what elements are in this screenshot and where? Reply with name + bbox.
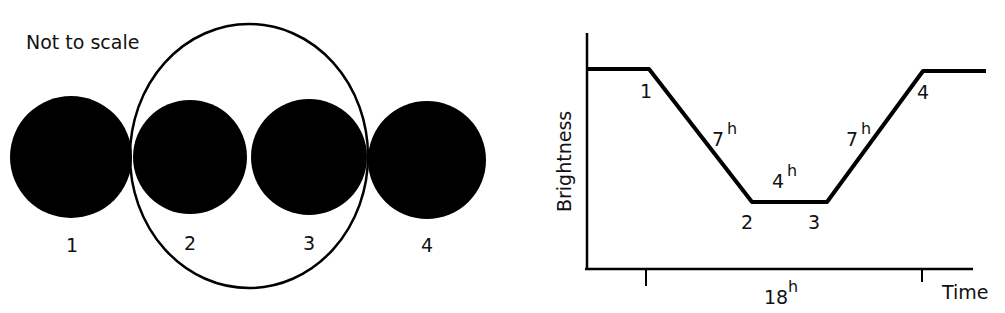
segment-duration-2-3: 4 h	[772, 161, 797, 192]
eclipse-diagram: Not to scale 1 2 3 4 Brightness Time 1 2…	[0, 0, 1005, 313]
x-axis-label: Time	[941, 281, 989, 303]
star-configuration-diagram: Not to scale 1 2 3 4	[10, 24, 486, 288]
star-2-disc	[133, 100, 247, 214]
svg-text:7: 7	[846, 128, 858, 150]
star-4-disc	[368, 101, 486, 219]
point-label-3: 3	[808, 211, 820, 233]
star-label-4: 4	[421, 234, 433, 256]
y-axis-label: Brightness	[553, 111, 575, 212]
not-to-scale-note: Not to scale	[26, 31, 139, 53]
svg-text:18: 18	[764, 286, 788, 308]
star-3-disc	[251, 99, 367, 215]
total-duration-label: 18 h	[764, 277, 798, 308]
point-label-2: 2	[741, 211, 753, 233]
light-curve-chart: Brightness Time 1 2 3 4 7 h 4 h 7 h 18 h	[553, 33, 989, 308]
point-label-1: 1	[640, 80, 652, 102]
star-label-1: 1	[66, 234, 78, 256]
point-label-4: 4	[917, 81, 929, 103]
star-1-disc	[10, 96, 132, 218]
svg-text:4: 4	[772, 170, 784, 192]
svg-text:h: h	[727, 119, 737, 138]
segment-duration-1-2: 7 h	[712, 119, 737, 150]
star-label-3: 3	[303, 232, 315, 254]
svg-text:h: h	[787, 161, 797, 180]
svg-text:h: h	[861, 119, 871, 138]
svg-text:7: 7	[712, 128, 724, 150]
star-label-2: 2	[184, 232, 196, 254]
svg-text:h: h	[788, 277, 798, 296]
